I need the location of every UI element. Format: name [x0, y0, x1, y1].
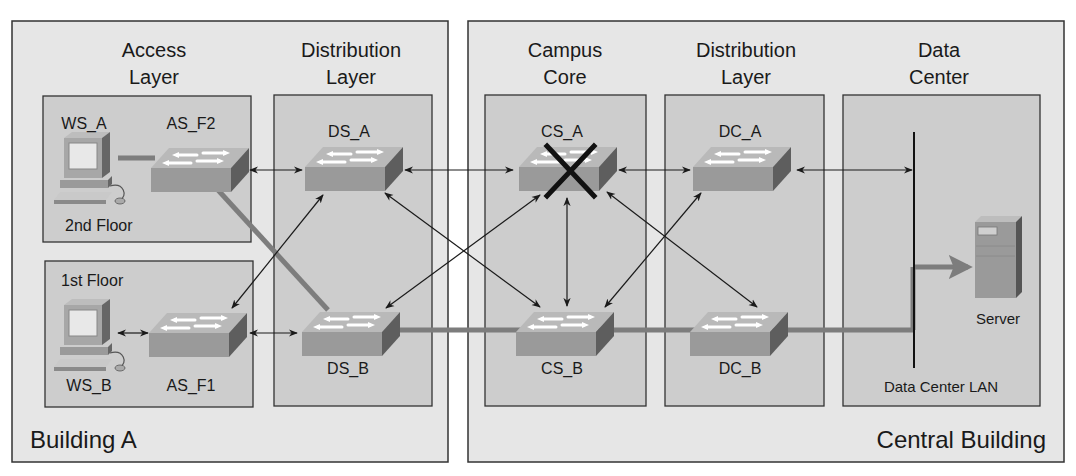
label-server: Server [976, 310, 1020, 327]
label-dc-b: DC_B [719, 360, 762, 378]
label-1st-floor: 1st Floor [61, 272, 124, 289]
campus-core-heading: Campus [528, 39, 602, 61]
campus-network-diagram: Access Layer Distribution Layer Campus C… [0, 0, 1076, 476]
campus-core-heading-2: Core [543, 66, 586, 88]
data-center-heading-2: Center [909, 66, 969, 88]
central-building-label: Central Building [877, 426, 1046, 453]
label-data-center-lan: Data Center LAN [884, 378, 998, 395]
switch-dc-b [690, 312, 788, 356]
label-as-f1: AS_F1 [167, 377, 216, 395]
distribution-c-heading: Distribution [696, 39, 796, 61]
access-layer-heading-2: Layer [129, 66, 179, 88]
data-center-heading: Data [918, 39, 961, 61]
distribution-a-heading-2: Layer [326, 66, 376, 88]
switch-as-f2 [151, 148, 249, 192]
building-a-label: Building A [30, 426, 137, 453]
label-cs-a: CS_A [541, 123, 583, 141]
label-cs-b: CS_B [541, 360, 583, 378]
label-as-f2: AS_F2 [167, 115, 216, 133]
switch-ds-b [302, 312, 400, 356]
label-ws-a: WS_A [61, 115, 107, 133]
distribution-c-heading-2: Layer [721, 66, 771, 88]
switch-dc-a [693, 147, 791, 191]
switch-as-f1 [149, 313, 247, 357]
label-ds-b: DS_B [327, 360, 369, 378]
label-ws-b: WS_B [66, 377, 111, 395]
server-icon [975, 216, 1022, 298]
label-2nd-floor: 2nd Floor [65, 217, 133, 234]
label-ds-a: DS_A [328, 123, 370, 141]
label-dc-a: DC_A [719, 123, 762, 141]
access-layer-heading: Access [122, 39, 186, 61]
switch-ds-a [305, 147, 403, 191]
switch-cs-b [516, 312, 614, 356]
distribution-a-heading: Distribution [301, 39, 401, 61]
